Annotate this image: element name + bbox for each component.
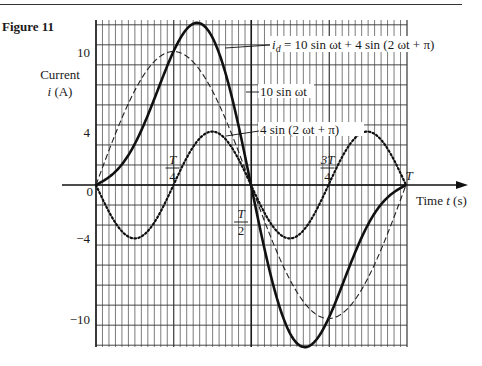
y-axis-label-line2: i (A) bbox=[48, 84, 73, 99]
y-tick-label: −4 bbox=[76, 231, 90, 246]
waveform-chart: 1040−4−10Currenti (A)T4T23T4TTime t (s)i… bbox=[0, 0, 482, 366]
x-axis-label: Time t (s) bbox=[416, 193, 467, 208]
id-annotation: id = 10 sin ωt + 4 sin (2 ωt + π) bbox=[272, 37, 434, 54]
x-tick-numerator: T bbox=[169, 152, 177, 167]
y-axis-label-line1: Current bbox=[40, 67, 80, 82]
x-tick-numerator: T bbox=[237, 206, 245, 221]
y-tick-label: 10 bbox=[77, 45, 90, 60]
y-tick-label: −10 bbox=[70, 312, 90, 327]
four-sin-annotation: 4 sin (2 ωt + π) bbox=[260, 122, 339, 137]
x-tick-denominator: 2 bbox=[238, 223, 245, 238]
x-tick-denominator: 4 bbox=[324, 169, 331, 184]
x-tick-label: T bbox=[405, 168, 413, 183]
y-tick-label: 0 bbox=[87, 184, 94, 199]
x-tick-numerator: 3T bbox=[320, 152, 336, 167]
x-axis-arrow-icon bbox=[456, 181, 468, 189]
x-tick-denominator: 4 bbox=[169, 169, 176, 184]
ten-sin-annotation: 10 sin ωt bbox=[260, 84, 307, 99]
y-tick-label: 4 bbox=[84, 125, 91, 140]
chart-labels: 1040−4−10Currenti (A)T4T23T4TTime t (s)i… bbox=[40, 36, 478, 327]
